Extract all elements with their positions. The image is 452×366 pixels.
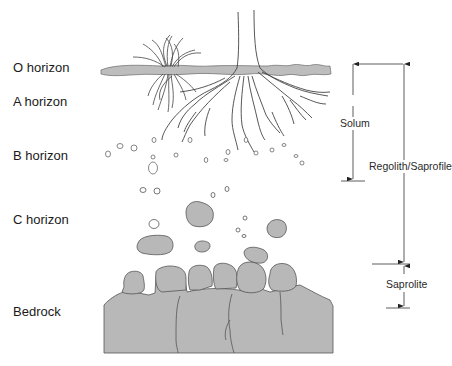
horizon-label-c: C horizon xyxy=(13,213,69,226)
horizon-label-b: B horizon xyxy=(13,149,68,162)
tree-roots-icon xyxy=(162,10,330,152)
horizon-label-a: A horizon xyxy=(13,95,67,108)
horizon-label-o: O horizon xyxy=(13,61,69,74)
b-horizon-pebbles xyxy=(106,138,305,175)
diagram-graphics xyxy=(0,0,452,366)
dimension-label-regolith: Regolith/Saprofile xyxy=(369,160,452,173)
dimension-label-solum: Solum xyxy=(340,117,370,130)
dimension-label-saprolite: Saprolite xyxy=(386,278,427,291)
dimension-lines xyxy=(341,64,410,308)
soil-profile-diagram: O horizon A horizon B horizon C horizon … xyxy=(0,0,452,366)
o-horizon-layer xyxy=(101,64,331,75)
horizon-label-bedrock: Bedrock xyxy=(13,305,61,318)
bedrock-layer xyxy=(104,262,333,353)
c-horizon-rocks xyxy=(137,187,286,264)
